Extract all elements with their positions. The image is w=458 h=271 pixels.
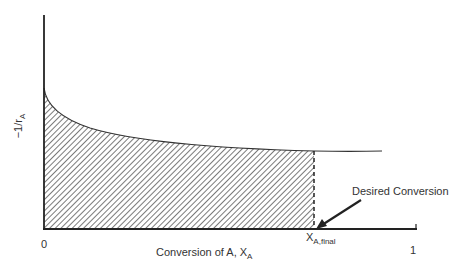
x-axis-label: Conversion of A, XA: [156, 246, 252, 258]
annotation-arrow: [322, 200, 361, 225]
arrowhead-icon: [316, 219, 327, 229]
x-tick-final: XA,final: [306, 231, 336, 243]
levenspiel-plot: [0, 0, 458, 271]
y-axis-label: −1/rA: [12, 114, 24, 139]
hatched-area: [44, 88, 314, 229]
x-tick-one-label: 1: [410, 244, 416, 256]
x-tick-zero: 0: [41, 238, 47, 250]
desired-conversion-label: Desired Conversion: [352, 185, 449, 197]
